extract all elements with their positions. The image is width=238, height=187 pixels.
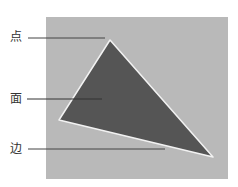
triangle-diagram: [0, 0, 238, 187]
vertex-label: 点: [10, 30, 22, 44]
face-label: 面: [10, 92, 22, 106]
edge-label: 边: [10, 142, 22, 156]
